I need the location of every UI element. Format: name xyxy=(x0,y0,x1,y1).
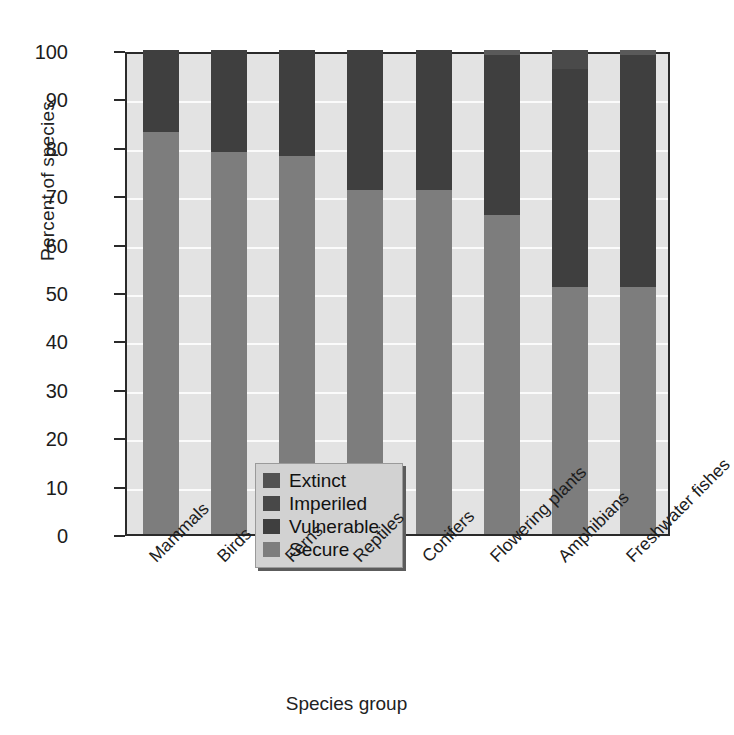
x-axis-tick-label: Mammals xyxy=(145,498,213,566)
x-axis-title: Species group xyxy=(0,693,693,715)
x-axis-tick-label: Freshwater fishes xyxy=(622,454,734,567)
x-axis-tick-label: Reptiles xyxy=(349,507,409,567)
x-axis-tick-label: Birds xyxy=(213,524,256,567)
x-axis-tick-label: Ferns xyxy=(281,520,327,566)
x-axis-tick-label: Conifers xyxy=(418,506,479,567)
